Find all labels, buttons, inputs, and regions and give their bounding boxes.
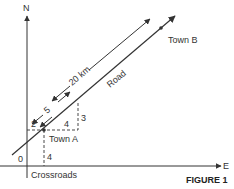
north-label: N <box>23 3 30 13</box>
road-label: Road <box>105 68 128 89</box>
rise-3-label: 3 <box>81 113 86 123</box>
figure-caption: FIGURE 1 <box>186 175 228 185</box>
north-4-label: 4 <box>47 152 52 162</box>
figure-1-diagram: N E 0 Crossroads Town A Town B FIGURE 1 … <box>0 0 234 189</box>
origin-label: 0 <box>18 154 23 164</box>
east-label: E <box>223 161 229 171</box>
distance-5-label: 5 <box>42 105 52 116</box>
distance-20km-label: 20 km <box>67 64 92 87</box>
distance-20km-arrow <box>52 19 150 101</box>
run-4-label: 4 <box>64 119 69 129</box>
town-b-dot <box>159 26 163 30</box>
road-line <box>12 16 175 155</box>
crossroads-label: Crossroads <box>31 170 78 180</box>
town-a-label: Town A <box>49 134 78 144</box>
town-b-label: Town B <box>168 35 198 45</box>
offset-2-label: 2 <box>31 119 36 129</box>
